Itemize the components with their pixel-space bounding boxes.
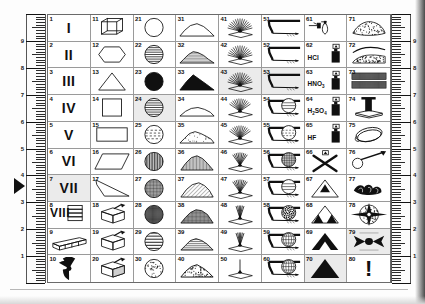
symbol-cell-14[interactable]: 14: [91, 95, 134, 122]
left-ruler-ticks: [27, 14, 45, 283]
symbol-cell-2[interactable]: 2II: [48, 42, 91, 69]
symbol-cell-68[interactable]: 68: [305, 202, 348, 229]
symbol-cell-31[interactable]: 31: [176, 15, 219, 42]
symbol-cell-50[interactable]: 50: [219, 255, 262, 282]
symbol-cell-44[interactable]: 44: [219, 95, 262, 122]
symbol-cell-56[interactable]: 56: [262, 149, 305, 176]
ruler-tick: [392, 178, 401, 179]
symbol-cell-78[interactable]: 78: [347, 202, 390, 229]
ruler-tick: [32, 108, 45, 109]
right-ruler[interactable]: 987654321: [391, 14, 411, 283]
symbol-cell-15[interactable]: 15: [91, 122, 134, 149]
symbol-cell-1[interactable]: 1I: [48, 15, 91, 42]
symbol-cell-41[interactable]: 41: [219, 15, 262, 42]
symbol-cell-73[interactable]: 73: [347, 68, 390, 95]
symbol-cell-71[interactable]: 71: [347, 15, 390, 42]
symbol-cell-37[interactable]: 37: [176, 175, 219, 202]
symbol-cell-60[interactable]: 60: [262, 255, 305, 282]
ruler-tick: [392, 259, 401, 260]
symbol-cell-number: 5: [50, 122, 53, 129]
symbol-cell-9[interactable]: 9: [48, 229, 91, 256]
ruler-tick: [392, 62, 401, 63]
symbol-cell-36[interactable]: 36: [176, 149, 219, 176]
symbol-cell-19[interactable]: 19: [91, 229, 134, 256]
symbol-cell-48[interactable]: 48: [219, 202, 262, 229]
symbol-cell-32[interactable]: 32: [176, 42, 219, 69]
symbol-cell-10[interactable]: 10: [48, 255, 91, 282]
symbol-cell-80[interactable]: 80!: [347, 255, 390, 282]
symbol-cell-72[interactable]: 72: [347, 42, 390, 69]
symbol-cell-47[interactable]: 47: [219, 175, 262, 202]
ruler-tick: [392, 264, 401, 265]
symbol-cell-number: 51: [263, 16, 270, 23]
symbol-cell-69[interactable]: 69: [305, 229, 348, 256]
symbol-cell-79[interactable]: 79: [347, 229, 390, 256]
symbol-cell-33[interactable]: 33: [176, 68, 219, 95]
symbol-cell-45[interactable]: 45: [219, 122, 262, 149]
symbol-cell-42[interactable]: 42: [219, 42, 262, 69]
symbol-cell-6[interactable]: 6VI: [48, 149, 91, 176]
symbol-cell-29[interactable]: 29: [134, 229, 177, 256]
symbol-cell-27[interactable]: 27: [134, 175, 177, 202]
ruler-tick: [36, 46, 45, 47]
symbol-cell-52[interactable]: 52: [262, 42, 305, 69]
symbol-cell-18[interactable]: 18: [91, 202, 134, 229]
symbol-cell-23[interactable]: 23: [134, 68, 177, 95]
symbol-cell-65[interactable]: 65HF: [305, 122, 348, 149]
symbol-cell-8[interactable]: 8VIII: [48, 202, 91, 229]
symbol-cell-5[interactable]: 5V: [48, 122, 91, 149]
symbol-cell-58[interactable]: 58: [262, 202, 305, 229]
symbol-cell-40[interactable]: 40: [176, 255, 219, 282]
ruler-tick: [392, 210, 401, 211]
ruler-tick: [392, 33, 401, 34]
symbol-cell-55[interactable]: 55: [262, 122, 305, 149]
ruler-tick: [26, 256, 45, 257]
symbol-cell-24[interactable]: 24: [134, 95, 177, 122]
symbol-cell-11[interactable]: 11: [91, 15, 134, 42]
symbol-cell-38[interactable]: 38: [176, 202, 219, 229]
left-ruler[interactable]: 987654321: [26, 14, 46, 283]
symbol-cell-53[interactable]: 53: [262, 68, 305, 95]
ruler-tick: [392, 205, 401, 206]
symbol-cell-3[interactable]: 3III: [48, 68, 91, 95]
symbol-cell-7[interactable]: 7VII: [48, 175, 91, 202]
symbol-cell-66[interactable]: 66: [305, 149, 348, 176]
symbol-cell-20[interactable]: 20: [91, 255, 134, 282]
symbol-cell-16[interactable]: 16: [91, 149, 134, 176]
symbol-cell-12[interactable]: 12: [91, 42, 134, 69]
symbol-cell-64[interactable]: 64H2SO4: [305, 95, 348, 122]
symbol-cell-63[interactable]: 63HNO3: [305, 68, 348, 95]
symbol-cell-22[interactable]: 22: [134, 42, 177, 69]
ruler-tick: [36, 79, 45, 80]
symbol-cell-25[interactable]: 25: [134, 122, 177, 149]
symbol-cell-62[interactable]: 62HCl: [305, 42, 348, 69]
symbol-cell-77[interactable]: 77: [347, 175, 390, 202]
symbol-cell-number: 77: [349, 176, 356, 183]
symbol-cell-17[interactable]: 17: [91, 175, 134, 202]
ruler-tick: [392, 208, 401, 209]
symbol-cell-46[interactable]: 46: [219, 149, 262, 176]
symbol-cell-39[interactable]: 39: [176, 229, 219, 256]
symbol-cell-4[interactable]: 4IV: [48, 95, 91, 122]
symbol-cell-57[interactable]: 57: [262, 175, 305, 202]
symbol-cell-21[interactable]: 21: [134, 15, 177, 42]
symbol-cell-59[interactable]: 59: [262, 229, 305, 256]
ruler-tick: [36, 181, 45, 182]
symbol-cell-34[interactable]: 34: [176, 95, 219, 122]
symbol-cell-30[interactable]: 30: [134, 255, 177, 282]
ruler-tick: [392, 186, 401, 187]
symbol-cell-28[interactable]: 28: [134, 202, 177, 229]
symbol-cell-75[interactable]: 75: [347, 122, 390, 149]
symbol-cell-76[interactable]: 76: [347, 149, 390, 176]
symbol-cell-54[interactable]: 54: [262, 95, 305, 122]
symbol-cell-51[interactable]: 51: [262, 15, 305, 42]
symbol-cell-61[interactable]: 61: [305, 15, 348, 42]
symbol-cell-70[interactable]: 70: [305, 255, 348, 282]
symbol-cell-67[interactable]: 67: [305, 175, 348, 202]
symbol-cell-35[interactable]: 35: [176, 122, 219, 149]
symbol-cell-49[interactable]: 49: [219, 229, 262, 256]
symbol-cell-43[interactable]: 43: [219, 68, 262, 95]
symbol-cell-13[interactable]: 13: [91, 68, 134, 95]
symbol-cell-26[interactable]: 26: [134, 149, 177, 176]
symbol-cell-74[interactable]: 74: [347, 95, 390, 122]
